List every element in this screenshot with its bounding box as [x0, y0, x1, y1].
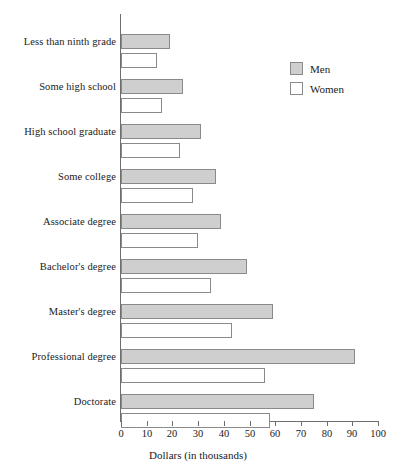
- x-tick: [275, 421, 276, 426]
- x-axis-title: Dollars (in thousands): [0, 449, 396, 461]
- bar-women: [121, 233, 198, 248]
- bar-men: [121, 394, 314, 409]
- bar-women: [121, 98, 162, 113]
- category-label: Master's degree: [49, 306, 116, 317]
- bar-men: [121, 124, 201, 139]
- x-tick: [147, 421, 148, 426]
- bar-group: Professional degree: [121, 339, 378, 384]
- category-label: Bachelor's degree: [40, 261, 116, 272]
- category-label: Less than ninth grade: [24, 36, 116, 47]
- x-tick: [378, 421, 379, 426]
- x-tick: [352, 421, 353, 426]
- bar-men: [121, 169, 216, 184]
- legend-label-men: Men: [310, 63, 330, 75]
- category-label: Some college: [58, 171, 116, 182]
- x-tick: [301, 421, 302, 426]
- legend-item-men: Men: [290, 60, 344, 77]
- legend-swatch-men-icon: [290, 62, 303, 75]
- x-tick: [327, 421, 328, 426]
- x-tick-label: 100: [363, 428, 393, 439]
- bar-women: [121, 278, 211, 293]
- bar-men: [121, 349, 355, 364]
- x-tick: [172, 421, 173, 426]
- bar-women: [121, 53, 157, 68]
- legend: Men Women: [290, 60, 344, 100]
- bar-group: Some college: [121, 159, 378, 204]
- legend-item-women: Women: [290, 80, 344, 97]
- bar-men: [121, 304, 273, 319]
- bar-women: [121, 413, 270, 428]
- bar-men: [121, 259, 247, 274]
- bar-group: Associate degree: [121, 204, 378, 249]
- category-label: Doctorate: [74, 396, 116, 407]
- x-tick: [198, 421, 199, 426]
- bar-group: Master's degree: [121, 294, 378, 339]
- legend-swatch-women-icon: [290, 82, 303, 95]
- category-label: Associate degree: [43, 216, 116, 227]
- x-tick: [250, 421, 251, 426]
- bar-men: [121, 34, 170, 49]
- category-label: High school graduate: [24, 126, 116, 137]
- legend-label-women: Women: [310, 83, 344, 95]
- bar-chart: Less than ninth gradeSome high schoolHig…: [0, 0, 396, 473]
- bar-men: [121, 79, 183, 94]
- bar-group: High school graduate: [121, 114, 378, 159]
- x-tick: [224, 421, 225, 426]
- category-label: Professional degree: [32, 351, 116, 362]
- bar-women: [121, 143, 180, 158]
- bar-women: [121, 188, 193, 203]
- bar-women: [121, 323, 232, 338]
- bar-group: Bachelor's degree: [121, 249, 378, 294]
- bar-women: [121, 368, 265, 383]
- category-label: Some high school: [39, 81, 116, 92]
- x-tick: [121, 421, 122, 426]
- bar-men: [121, 214, 221, 229]
